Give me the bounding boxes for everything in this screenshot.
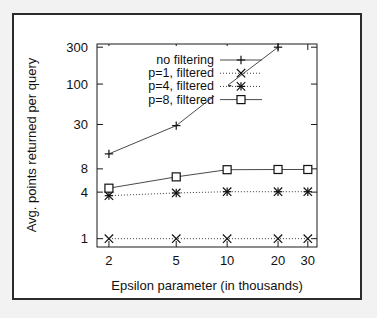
legend-label-1: no filtering [156, 53, 214, 67]
y-tick-label: 300 [66, 40, 88, 55]
y-tick-label: 4 [81, 185, 88, 200]
chart-canvas: 14830100300 25102030 no filteringp=1, fi… [14, 15, 360, 298]
y-tick-label: 30 [74, 117, 88, 132]
legend-label-3: p=4, filtered [148, 79, 214, 93]
x-tick-label: 2 [105, 253, 112, 268]
x-tick-label: 20 [271, 253, 285, 268]
x-tick-label: 30 [301, 253, 315, 268]
series-2 [105, 234, 312, 242]
page-background: 14830100300 25102030 no filteringp=1, fi… [0, 0, 377, 318]
chart-legend: no filteringp=1, filteredp=4, filteredp=… [104, 46, 262, 107]
legend-label-2: p=1, filtered [148, 66, 214, 80]
y-tick-label: 1 [81, 231, 88, 246]
x-tick-label: 10 [220, 253, 234, 268]
series-3 [105, 188, 312, 200]
y-tick-label: 8 [81, 161, 88, 176]
x-axis-title: Epsilon parameter (in thousands) [111, 278, 303, 293]
y-axis-title: Avg. points returned per query [24, 57, 39, 232]
legend-label-4: p=8, filtered [148, 93, 214, 107]
y-tick-label: 100 [66, 77, 88, 92]
x-tick-label: 5 [173, 253, 180, 268]
figure-frame: 14830100300 25102030 no filteringp=1, fi… [12, 13, 362, 300]
